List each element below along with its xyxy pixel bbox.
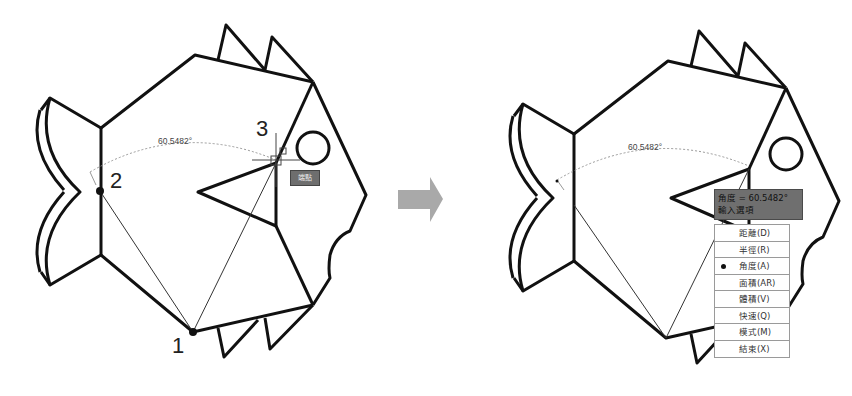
left-fish-drawing — [37, 25, 366, 357]
menu-item-radius[interactable]: 半徑(R) — [715, 242, 789, 259]
menu-item-angle[interactable]: 角度(A) — [715, 258, 789, 275]
endpoint-snap-tooltip: 端點 — [290, 170, 320, 186]
menu-item-volume[interactable]: 體積(V) — [715, 291, 789, 308]
angle-readout: 角度 = 60.5482° — [718, 192, 799, 204]
angle-dimension-label: 60.5482° — [158, 136, 192, 146]
point-3-label: 3 — [256, 118, 268, 140]
selected-bullet-icon — [721, 264, 726, 269]
point-1-marker[interactable] — [189, 328, 197, 336]
menu-item-mode[interactable]: 模式(M) — [715, 324, 789, 341]
measure-options-menu: 距離(D) 半徑(R) 角度(A) 面積(AR) 體積(V) 快速(Q) 模式(… — [714, 224, 790, 358]
point-1-label: 1 — [172, 335, 184, 357]
point-2-marker[interactable] — [96, 187, 104, 195]
menu-item-quick[interactable]: 快速(Q) — [715, 308, 789, 325]
dynamic-input-tooltip: 角度 = 60.5482° 輸入選項 — [714, 189, 803, 220]
right-arrow-icon — [398, 177, 443, 222]
menu-item-distance[interactable]: 距離(D) — [715, 225, 789, 242]
right-vertex-marker — [556, 180, 559, 183]
menu-item-exit[interactable]: 結束(X) — [715, 341, 789, 358]
point-2-label: 2 — [110, 170, 122, 192]
enter-option-prompt: 輸入選項 — [718, 204, 799, 216]
angle-dimension-label-right: 60.5482° — [628, 142, 662, 152]
menu-item-area[interactable]: 面積(AR) — [715, 275, 789, 292]
